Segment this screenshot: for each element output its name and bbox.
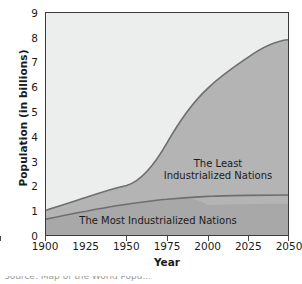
y-tick-1: 1	[12, 206, 38, 216]
y-tick-6: 6	[12, 82, 38, 92]
y-tick-3: 3	[12, 157, 38, 167]
y-tick-2: 2	[12, 181, 38, 191]
series-label-most-industrialized: The Most Industrialized Nations	[70, 215, 246, 227]
series-label-least-industrialized: The Least Industrialized Nations	[152, 158, 284, 182]
plot-area	[45, 12, 289, 236]
y-tick-9: 9	[12, 8, 38, 18]
x-tick-2050: 2050	[264, 240, 302, 252]
area-series-svg	[46, 13, 288, 235]
y-tick-5: 5	[12, 107, 38, 117]
x-tickmark-1925	[0, 236, 1, 241]
population-area-chart: Population (in billions) 9 8 7 6 5 4 3 2…	[0, 0, 302, 284]
x-axis-title: Year	[45, 256, 289, 268]
y-tick-4: 4	[12, 132, 38, 142]
y-tick-7: 7	[12, 57, 38, 67]
y-tick-8: 8	[12, 33, 38, 43]
cropped-caption-text: Source: Map of the World Popu...	[4, 276, 302, 281]
cropped-caption: Source: Map of the World Popu...	[0, 276, 302, 284]
